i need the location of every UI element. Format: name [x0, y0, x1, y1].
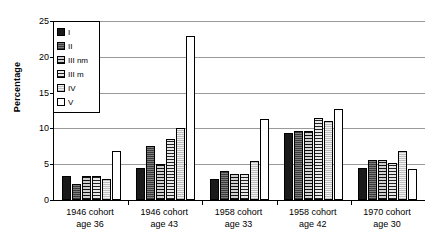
bar-groups: [54, 21, 425, 200]
plot-area: 0510152025: [53, 21, 425, 201]
legend-item: V: [57, 95, 95, 109]
bar: [260, 119, 269, 200]
x-axis-tick: [277, 200, 278, 205]
x-axis-label: 1958 cohortage 33: [201, 206, 275, 230]
x-axis-tick: [351, 200, 352, 205]
bar: [304, 131, 313, 200]
x-axis-label: 1946 cohortage 36: [53, 206, 127, 230]
bar-chart: Percentage 0510152025 1946 cohortage 361…: [0, 0, 437, 250]
x-axis-label-line: 1958 cohort: [201, 206, 275, 218]
bar: [62, 176, 71, 200]
bar: [240, 174, 249, 200]
bar-group: [202, 21, 276, 200]
bar: [146, 146, 155, 200]
y-axis-title: Percentage: [12, 37, 22, 137]
legend-label: III m: [68, 70, 84, 79]
y-tick-label: 10: [39, 123, 49, 133]
bar: [358, 168, 367, 200]
x-axis-label-line: age 36: [53, 218, 127, 230]
bar: [408, 169, 417, 201]
legend-swatch-icon: [57, 56, 65, 64]
x-axis-label-line: age 43: [127, 218, 201, 230]
y-tick-label: 15: [39, 88, 49, 98]
x-axis-tick: [128, 200, 129, 205]
bar: [388, 163, 397, 200]
bar: [82, 176, 91, 200]
legend-swatch-icon: [57, 42, 65, 50]
bar: [284, 133, 293, 200]
legend-item: III m: [57, 67, 95, 81]
bar: [186, 36, 195, 200]
x-axis-label-line: age 33: [201, 218, 275, 230]
legend-label: V: [68, 98, 73, 107]
x-axis-labels: 1946 cohortage 361946 cohortage 431958 c…: [53, 206, 424, 230]
x-axis-label-line: 1946 cohort: [53, 206, 127, 218]
bar: [398, 151, 407, 200]
legend-swatch-icon: [57, 98, 65, 106]
x-axis-label-line: 1970 cohort: [350, 206, 424, 218]
x-axis-label-line: age 42: [276, 218, 350, 230]
bar: [220, 171, 229, 200]
legend-item: III nm: [57, 53, 95, 67]
bar: [294, 131, 303, 200]
bar: [92, 176, 101, 200]
x-axis-label-line: 1958 cohort: [276, 206, 350, 218]
y-tick-label: 5: [44, 159, 49, 169]
bar: [230, 174, 239, 200]
y-tick-label: 25: [39, 16, 49, 26]
legend-swatch-icon: [57, 84, 65, 92]
y-tick-label: 20: [39, 52, 49, 62]
legend-label: II: [68, 42, 72, 51]
bar: [72, 184, 81, 200]
bar: [102, 179, 111, 200]
bar: [378, 160, 387, 200]
legend-label: I: [68, 28, 70, 37]
bar: [176, 128, 185, 200]
bar: [324, 121, 333, 200]
x-axis-label: 1958 cohortage 42: [276, 206, 350, 230]
bar: [166, 139, 175, 200]
bar-group: [128, 21, 202, 200]
x-axis-label-line: 1946 cohort: [127, 206, 201, 218]
x-axis-tick: [202, 200, 203, 205]
bar-group: [351, 21, 425, 200]
x-axis-label-line: age 30: [350, 218, 424, 230]
bar-group: [277, 21, 351, 200]
legend-label: IV: [68, 84, 76, 93]
bar: [334, 109, 343, 200]
chart-legend: IIIIII nmIII mIVV: [53, 21, 100, 113]
legend-swatch-icon: [57, 70, 65, 78]
y-tick-label: 0: [44, 195, 49, 205]
legend-item: I: [57, 25, 95, 39]
bar: [314, 118, 323, 200]
legend-item: II: [57, 39, 95, 53]
y-tick-mark: [50, 200, 54, 201]
bar: [368, 160, 377, 200]
bar: [112, 151, 121, 200]
x-axis-label: 1946 cohortage 43: [127, 206, 201, 230]
x-axis-label: 1970 cohortage 30: [350, 206, 424, 230]
bar: [156, 164, 165, 200]
legend-label: III nm: [68, 56, 88, 65]
bar: [136, 168, 145, 200]
bar: [250, 161, 259, 200]
bar: [210, 179, 219, 200]
legend-swatch-icon: [57, 28, 65, 36]
legend-item: IV: [57, 81, 95, 95]
